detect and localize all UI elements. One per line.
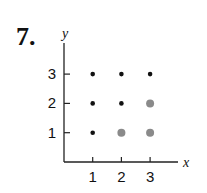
y-tick-label: 1 xyxy=(48,124,56,141)
x-tick-label: 1 xyxy=(89,168,97,185)
y-tick-label: 3 xyxy=(48,65,56,82)
scatter-plot: 123123 x y xyxy=(0,0,207,193)
black-point xyxy=(119,72,124,77)
gray-point xyxy=(117,129,125,137)
gray-point xyxy=(146,129,154,137)
black-point xyxy=(90,101,95,106)
black-point xyxy=(148,72,153,77)
y-axis-label: y xyxy=(60,26,69,41)
black-point xyxy=(90,72,95,77)
black-point xyxy=(119,101,124,106)
black-point xyxy=(90,130,95,135)
x-tick-label: 2 xyxy=(117,168,125,185)
gray-point xyxy=(146,99,154,107)
x-tick-label: 3 xyxy=(146,168,154,185)
y-tick-label: 2 xyxy=(48,94,56,111)
x-axis-label: x xyxy=(182,155,190,170)
